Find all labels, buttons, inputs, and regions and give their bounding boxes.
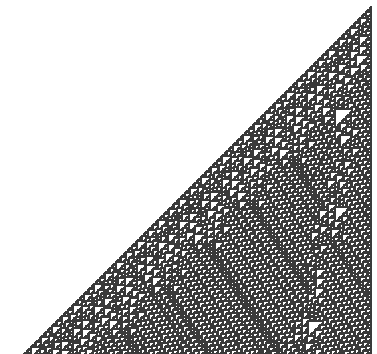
rule-110-automaton-image	[0, 0, 377, 354]
